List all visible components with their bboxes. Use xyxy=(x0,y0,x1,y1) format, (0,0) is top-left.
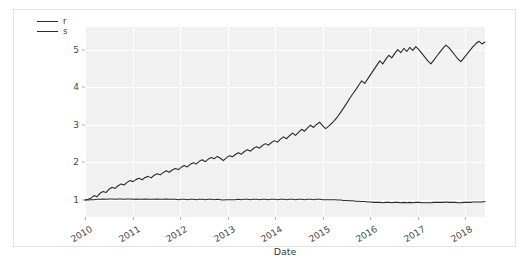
x-tick-label: 2010 xyxy=(69,224,94,244)
x-tick-label: 2013 xyxy=(212,224,237,244)
legend-item-r: r xyxy=(37,16,67,26)
x-tick-mark xyxy=(275,217,276,220)
x-tick-mark xyxy=(323,217,324,220)
x-tick-label: 2011 xyxy=(117,224,142,244)
y-tick-mark xyxy=(82,200,85,201)
figure-canvas: 1234520102011201220132014201520162017201… xyxy=(0,0,529,262)
x-tick-mark xyxy=(370,217,371,220)
x-tick-label: 2012 xyxy=(164,224,189,244)
line-series-r xyxy=(85,41,485,200)
legend-swatch-s xyxy=(37,31,58,32)
x-tick-label: 2015 xyxy=(307,224,332,244)
x-tick-mark xyxy=(180,217,181,220)
series-lines xyxy=(85,27,485,217)
x-tick-mark xyxy=(85,217,86,220)
legend-label-r: r xyxy=(63,17,67,26)
line-series-s xyxy=(85,199,485,203)
x-tick-mark xyxy=(228,217,229,220)
y-tick-mark xyxy=(82,87,85,88)
x-tick-label: 2014 xyxy=(259,224,284,244)
legend-label-s: s xyxy=(63,27,67,36)
y-tick-label: 5 xyxy=(73,45,79,55)
y-tick-label: 3 xyxy=(73,120,79,130)
x-tick-label: 2017 xyxy=(402,224,427,244)
y-tick-label: 2 xyxy=(73,157,79,167)
x-tick-label: 2016 xyxy=(354,224,379,244)
plot-area: 1234520102011201220132014201520162017201… xyxy=(85,27,485,217)
y-tick-mark xyxy=(82,162,85,163)
figure-frame: 1234520102011201220132014201520162017201… xyxy=(13,9,516,247)
x-tick-mark xyxy=(418,217,419,220)
x-tick-mark xyxy=(465,217,466,220)
x-tick-label: 2018 xyxy=(449,224,474,244)
y-tick-label: 4 xyxy=(73,82,79,92)
x-tick-mark xyxy=(133,217,134,220)
y-tick-mark xyxy=(82,124,85,125)
chart-legend: r s xyxy=(34,14,70,38)
y-tick-mark xyxy=(82,49,85,50)
legend-item-s: s xyxy=(37,26,67,36)
legend-swatch-r xyxy=(37,21,58,22)
x-axis-label: Date xyxy=(85,246,485,257)
y-tick-label: 1 xyxy=(73,195,79,205)
